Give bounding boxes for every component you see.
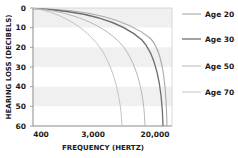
x-tick-20000: 20,000 bbox=[141, 130, 170, 139]
band-20-30 bbox=[33, 47, 172, 67]
band-50-60 bbox=[33, 106, 172, 126]
y-tick-60: 60 bbox=[16, 122, 26, 131]
y-axis-ticks: 0 10 20 30 40 50 60 bbox=[16, 4, 26, 131]
y-tick-marks bbox=[30, 8, 33, 126]
y-tick-0: 0 bbox=[21, 4, 26, 13]
band-10-20 bbox=[33, 28, 172, 48]
y-tick-10: 10 bbox=[16, 23, 26, 32]
legend-label-age-50: Age 50 bbox=[205, 62, 234, 71]
legend-label-age-30: Age 30 bbox=[205, 35, 234, 44]
x-tick-3000: 3,000 bbox=[81, 130, 105, 139]
y-tick-40: 40 bbox=[16, 82, 26, 91]
chart-svg: 0 10 20 30 40 50 60 400 3,000 20,000 FRE… bbox=[0, 0, 238, 158]
y-tick-30: 30 bbox=[16, 63, 26, 72]
band-30-40 bbox=[33, 67, 172, 87]
legend: Age 20 Age 30 Age 50 Age 70 bbox=[182, 10, 234, 97]
legend-label-age-70: Age 70 bbox=[205, 88, 234, 97]
x-axis-ticks: 400 3,000 20,000 bbox=[33, 130, 169, 139]
y-tick-20: 20 bbox=[16, 43, 26, 52]
y-axis-label: HEARING LOSS (DECIBELS) bbox=[5, 15, 13, 120]
legend-label-age-20: Age 20 bbox=[205, 10, 234, 19]
background-bands bbox=[33, 8, 172, 126]
x-axis-label: FREQUENCY (HERTZ) bbox=[62, 144, 144, 152]
x-tick-400: 400 bbox=[33, 130, 49, 139]
band-40-50 bbox=[33, 87, 172, 107]
y-tick-50: 50 bbox=[16, 102, 26, 111]
hearing-loss-chart: 0 10 20 30 40 50 60 400 3,000 20,000 FRE… bbox=[0, 0, 238, 158]
